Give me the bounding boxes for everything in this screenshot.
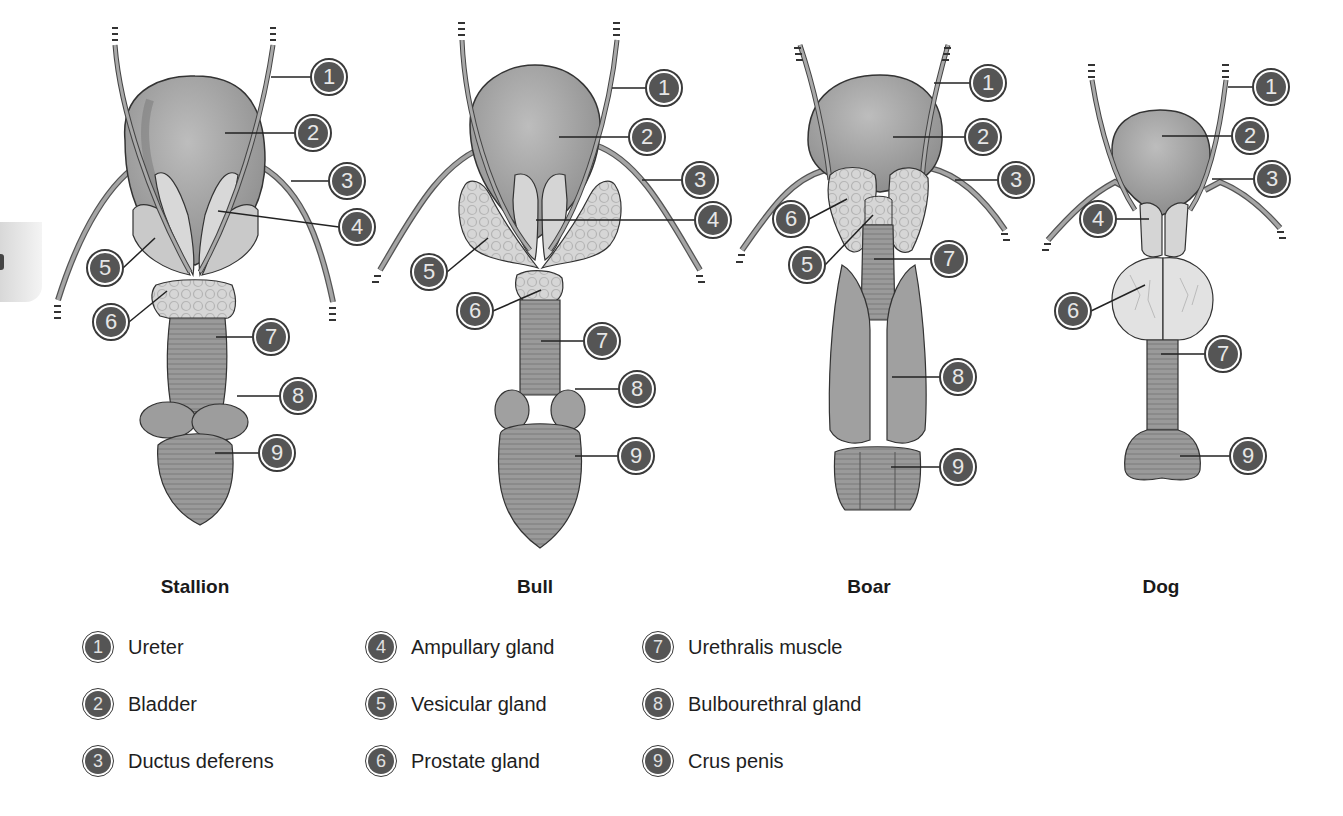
- legend-label: Crus penis: [688, 750, 784, 773]
- stallion-callout-9-icon: 9: [258, 434, 296, 472]
- legend-item-prostate-gland: 6 Prostate gland: [365, 744, 540, 778]
- number-badge-icon: 3: [82, 745, 114, 777]
- bull-callout-4-icon: 4: [694, 201, 732, 239]
- legend-label: Bladder: [128, 693, 197, 716]
- dog-callout-6-icon: 6: [1054, 292, 1092, 330]
- legend-label: Prostate gland: [411, 750, 540, 773]
- legend-item-bladder: 2 Bladder: [82, 687, 197, 721]
- legend-item-crus-penis: 9 Crus penis: [642, 744, 784, 778]
- stallion-callout-6-icon: 6: [92, 303, 130, 341]
- species-label-bull: Bull: [517, 576, 553, 598]
- leader-line: [218, 211, 339, 227]
- boar-callout-8-icon: 8: [939, 358, 977, 396]
- species-label-dog: Dog: [1143, 576, 1180, 598]
- bull-callout-1-icon: 1: [645, 69, 683, 107]
- dog-callout-4-icon: 4: [1079, 200, 1117, 238]
- number-badge-icon: 6: [365, 745, 397, 777]
- leader-line: [123, 238, 155, 268]
- number-badge-icon: 4: [365, 631, 397, 663]
- legend-label: Ureter: [128, 636, 184, 659]
- stallion-callout-5-icon: 5: [86, 249, 124, 287]
- legend-label: Bulbourethral gland: [688, 693, 861, 716]
- legend-item-urethralis-muscle: 7 Urethralis muscle: [642, 630, 842, 664]
- number-badge-icon: 2: [82, 688, 114, 720]
- leader-line: [809, 199, 847, 219]
- number-badge-icon: 5: [365, 688, 397, 720]
- legend-item-ductus-deferens: 3 Ductus deferens: [82, 744, 274, 778]
- number-badge-icon: 1: [82, 631, 114, 663]
- leader-line: [129, 291, 167, 322]
- legend-label: Ductus deferens: [128, 750, 274, 773]
- boar-callout-2-icon: 2: [964, 118, 1002, 156]
- legend-item-vesicular-gland: 5 Vesicular gland: [365, 687, 547, 721]
- stallion-callout-7-icon: 7: [252, 318, 290, 356]
- dog-callout-1-icon: 1: [1252, 68, 1290, 106]
- legend-item-ureter: 1 Ureter: [82, 630, 184, 664]
- number-badge-icon: 9: [642, 745, 674, 777]
- leader-line: [1091, 285, 1145, 311]
- dog-callout-7-icon: 7: [1204, 335, 1242, 373]
- boar-callout-6-icon: 6: [772, 200, 810, 238]
- bull-callout-9-icon: 9: [617, 437, 655, 475]
- boar-callout-7-icon: 7: [930, 240, 968, 278]
- leader-line: [825, 215, 873, 265]
- stallion-callout-8-icon: 8: [279, 377, 317, 415]
- number-badge-icon: 7: [642, 631, 674, 663]
- legend-label: Urethralis muscle: [688, 636, 842, 659]
- species-label-boar: Boar: [847, 576, 890, 598]
- bull-callout-2-icon: 2: [628, 118, 666, 156]
- stallion-callout-1-icon: 1: [310, 58, 348, 96]
- bull-callout-3-icon: 3: [681, 161, 719, 199]
- leader-line: [493, 290, 541, 311]
- dog-callout-3-icon: 3: [1253, 160, 1291, 198]
- dog-callout-9-icon: 9: [1229, 437, 1267, 475]
- bull-callout-6-icon: 6: [456, 292, 494, 330]
- number-badge-icon: 8: [642, 688, 674, 720]
- boar-callout-3-icon: 3: [997, 161, 1035, 199]
- stallion-callout-3-icon: 3: [328, 162, 366, 200]
- stallion-callout-4-icon: 4: [338, 208, 376, 246]
- legend-label: Vesicular gland: [411, 693, 547, 716]
- bull-callout-7-icon: 7: [583, 322, 621, 360]
- boar-callout-1-icon: 1: [969, 64, 1007, 102]
- legend-item-bulbourethral-gland: 8 Bulbourethral gland: [642, 687, 861, 721]
- bull-callout-8-icon: 8: [618, 370, 656, 408]
- bull-callout-5-icon: 5: [410, 253, 448, 291]
- dog-callout-2-icon: 2: [1231, 117, 1269, 155]
- legend-label: Ampullary gland: [411, 636, 554, 659]
- boar-callout-9-icon: 9: [939, 448, 977, 486]
- species-label-stallion: Stallion: [161, 576, 230, 598]
- boar-callout-5-icon: 5: [788, 246, 826, 284]
- stallion-callout-2-icon: 2: [294, 114, 332, 152]
- legend-item-ampullary-gland: 4 Ampullary gland: [365, 630, 554, 664]
- leader-line: [447, 238, 488, 272]
